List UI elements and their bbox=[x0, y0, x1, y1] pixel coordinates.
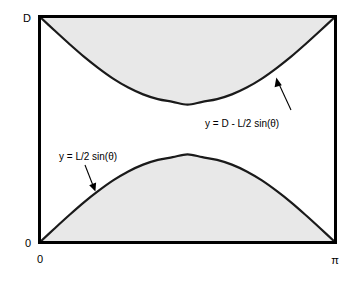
lower-curve-annotation-label: y = L/2 sin(θ) bbox=[59, 151, 117, 162]
sine-envelope-plot: D 0 0 π y = D - L/2 sin(θ) y = L/2 sin(θ… bbox=[0, 0, 357, 282]
x-axis-left-label: 0 bbox=[37, 253, 43, 265]
y-axis-bottom-label: 0 bbox=[25, 237, 31, 249]
x-axis-right-label: π bbox=[331, 254, 339, 266]
y-axis-top-label: D bbox=[23, 12, 31, 24]
figure-container: D 0 0 π y = D - L/2 sin(θ) y = L/2 sin(θ… bbox=[0, 0, 357, 282]
upper-curve-annotation-label: y = D - L/2 sin(θ) bbox=[205, 118, 279, 129]
